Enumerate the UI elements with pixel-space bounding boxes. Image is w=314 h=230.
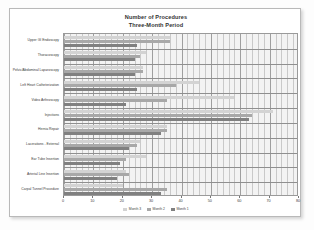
bar [64, 155, 146, 158]
axis-tick [92, 196, 93, 198]
bar-series-container [64, 34, 297, 195]
screenshot-root: Number of Procedures Three-Month Period … [0, 0, 314, 230]
bar [64, 44, 137, 47]
bar [64, 66, 143, 69]
bar [64, 81, 199, 84]
bar [64, 147, 129, 150]
axis-tick-label: 10 [90, 199, 94, 203]
chart-card: Number of Procedures Three-Month Period … [9, 8, 301, 217]
category-label: Upper GI Endoscopy [28, 38, 59, 42]
bar [64, 162, 120, 165]
bar-group [64, 64, 297, 79]
axis-tick [269, 196, 270, 198]
legend-swatch-icon [123, 208, 127, 211]
bar [64, 51, 146, 54]
bar [64, 184, 123, 187]
bar [64, 177, 117, 180]
legend-item[interactable]: Month 1 [171, 207, 189, 211]
bar [64, 132, 161, 135]
bar [64, 114, 252, 117]
axis-tick-label: 60 [237, 199, 241, 203]
category-label: Hernia Repair [38, 127, 59, 131]
category-axis-labels: Upper GI EndoscopyThoracoscopyPelvic/Abd… [10, 33, 61, 196]
legend-item[interactable]: Month 3 [123, 207, 141, 211]
legend-item[interactable]: Month 2 [147, 207, 165, 211]
chart-title: Number of Procedures [10, 14, 302, 22]
bar [64, 96, 234, 99]
category-label: Pelvic/Abdominal Laparoscopy [13, 68, 59, 72]
legend-swatch-icon [171, 208, 175, 211]
bar-group [64, 34, 297, 49]
bar-group [64, 182, 297, 196]
chart-subtitle: Three-Month Period [10, 22, 302, 30]
bar [64, 58, 135, 61]
axis-tick [239, 196, 240, 198]
bar-group [64, 167, 297, 182]
legend-label: Month 1 [176, 207, 188, 211]
bar [64, 170, 126, 173]
bar [64, 158, 126, 161]
axis-tick [181, 196, 182, 198]
bar [64, 84, 176, 87]
axis-tick-label: 40 [178, 199, 182, 203]
bar-group [64, 138, 297, 153]
axis-tick [210, 196, 211, 198]
axis-tick [151, 196, 152, 198]
bar [64, 73, 135, 76]
bar-group [64, 78, 297, 93]
bar [64, 70, 143, 73]
bar [64, 36, 170, 39]
bar [64, 129, 167, 132]
axis-tick-label: 50 [208, 199, 212, 203]
plot-area [63, 33, 298, 196]
chart-legend: Month 3Month 2Month 1 [10, 207, 302, 211]
bar-group [64, 108, 297, 123]
axis-tick [63, 196, 64, 198]
bar [64, 40, 170, 43]
bar-group [64, 123, 297, 138]
axis-tick-label: 0 [62, 199, 64, 203]
bar [64, 55, 140, 58]
bar [64, 103, 126, 106]
category-label: Thoracoscopy [38, 53, 59, 57]
bar [64, 110, 273, 113]
bar [64, 192, 161, 195]
axis-tick [298, 196, 299, 198]
bar-group [64, 93, 297, 108]
bar [64, 88, 137, 91]
legend-label: Month 3 [129, 207, 141, 211]
bar [64, 140, 140, 143]
bar [64, 173, 129, 176]
category-label: Left Heart Catheterization [20, 83, 59, 87]
axis-tick-label: 30 [149, 199, 153, 203]
category-label: Video Arthroscopy [32, 98, 59, 102]
axis-tick-label: 20 [120, 199, 124, 203]
category-label: Arterial Line Insertion [27, 172, 59, 176]
bar [64, 118, 249, 121]
category-label: Ear Tube Insertion [31, 157, 59, 161]
bar [64, 144, 137, 147]
axis-tick-label: 70 [267, 199, 271, 203]
axis-tick [122, 196, 123, 198]
bar [64, 188, 167, 191]
axis-tick-label: 80 [296, 199, 300, 203]
category-label: Lacerations - External [26, 142, 59, 146]
category-label: Carpal Tunnel Procedure [21, 187, 59, 191]
category-label: Injections [45, 113, 59, 117]
legend-label: Month 2 [153, 207, 165, 211]
bar [64, 125, 167, 128]
legend-swatch-icon [147, 208, 151, 211]
bar-group [64, 49, 297, 64]
bar [64, 99, 167, 102]
chart-title-block: Number of Procedures Three-Month Period [10, 14, 302, 29]
bar-group [64, 153, 297, 168]
